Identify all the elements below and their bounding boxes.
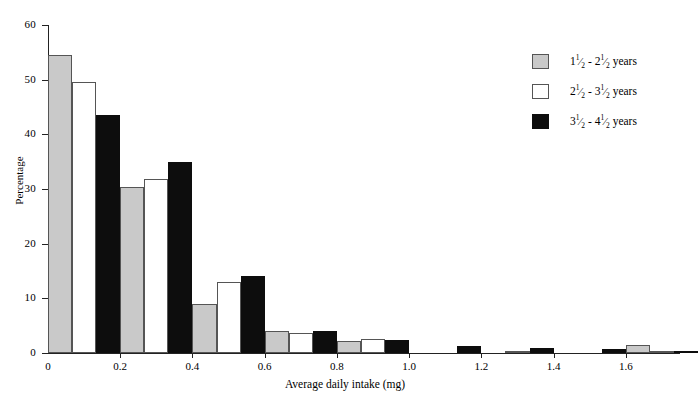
- bar-series2-bin1: [168, 162, 192, 353]
- legend-label-2: 31⁄2 - 41⁄2 years: [570, 112, 637, 130]
- x-tick-label: 1.4: [534, 360, 574, 372]
- bar-series2-bin6: [530, 348, 554, 353]
- legend: 11⁄2 - 21⁄2 years21⁄2 - 31⁄2 years31⁄2 -…: [532, 52, 687, 142]
- bar-series0-bin8: [626, 345, 650, 353]
- x-axis-line: [48, 353, 680, 354]
- bar-series1-bin0: [72, 82, 96, 353]
- y-tick-mark: [42, 25, 48, 26]
- legend-item-2: 31⁄2 - 41⁄2 years: [532, 112, 687, 142]
- y-axis-title: Percentage: [14, 136, 25, 226]
- bar-series1-bin4: [361, 339, 385, 353]
- legend-item-1: 21⁄2 - 31⁄2 years: [532, 82, 687, 112]
- bar-series1-bin1: [144, 179, 168, 353]
- bar-series2-bin3: [313, 331, 337, 353]
- bar-series0-bin2: [192, 304, 216, 353]
- legend-label-0: 11⁄2 - 21⁄2 years: [570, 52, 637, 70]
- y-tick-label: 0: [0, 347, 36, 358]
- bar-series1-bin8: [650, 351, 674, 353]
- y-tick-label: 20: [0, 238, 36, 249]
- x-tick-label: 1.6: [606, 360, 646, 372]
- x-tick-label: 0.6: [245, 360, 285, 372]
- x-tick-mark: [554, 353, 555, 358]
- x-tick-label: 0.8: [317, 360, 357, 372]
- legend-label-1: 21⁄2 - 31⁄2 years: [570, 82, 637, 100]
- bar-series2-bin5: [457, 346, 481, 353]
- x-tick-mark: [337, 353, 338, 358]
- bar-series0-bin1: [120, 187, 144, 353]
- x-tick-label: 0.2: [100, 360, 140, 372]
- x-tick-mark: [626, 353, 627, 358]
- x-tick-mark: [481, 353, 482, 358]
- bar-series0-bin0: [48, 55, 72, 353]
- y-tick-mark: [42, 353, 48, 354]
- bar-series1-bin2: [217, 282, 241, 353]
- x-tick-mark: [265, 353, 266, 358]
- x-tick-label: 0: [28, 360, 68, 372]
- bar-series2-bin2: [241, 276, 265, 353]
- x-tick-mark: [120, 353, 121, 358]
- bar-series2-bin8: [674, 351, 698, 353]
- y-tick-label: 50: [0, 74, 36, 85]
- bar-series2-bin7: [602, 349, 626, 353]
- bar-series2-bin4: [385, 340, 409, 353]
- bar-series1-bin3: [289, 333, 313, 353]
- x-axis-title: Average daily intake (mg): [200, 378, 490, 390]
- x-tick-label: 1.0: [389, 360, 429, 372]
- bar-series1-bin6: [505, 351, 529, 353]
- bar-series2-bin0: [96, 115, 120, 353]
- x-tick-mark: [409, 353, 410, 358]
- legend-swatch-1: [532, 84, 549, 99]
- bar-series0-bin4: [337, 341, 361, 353]
- legend-item-0: 11⁄2 - 21⁄2 years: [532, 52, 687, 82]
- y-tick-label: 60: [0, 19, 36, 30]
- bar-series0-bin3: [265, 331, 289, 353]
- x-tick-label: 1.2: [461, 360, 501, 372]
- y-tick-label: 10: [0, 292, 36, 303]
- x-tick-mark: [192, 353, 193, 358]
- legend-swatch-0: [532, 54, 549, 69]
- legend-swatch-2: [532, 114, 549, 129]
- x-tick-label: 0.4: [172, 360, 212, 372]
